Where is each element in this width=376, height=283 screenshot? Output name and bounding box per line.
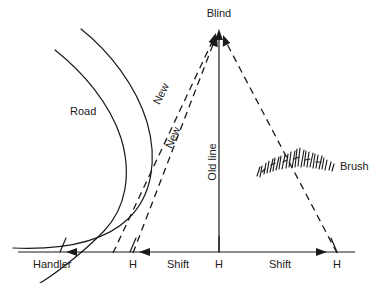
h-tick-marks [60,236,337,252]
blind-label: Blind [207,7,231,19]
brush-label: Brush [340,160,369,172]
handler-label: Handler [33,258,72,270]
arrow-left-icon-outer [66,248,77,256]
new-line-upper [113,40,213,253]
road-edge-outer [13,29,152,248]
h-label-right: H [333,258,341,270]
shift-label-left: Shift [167,258,189,270]
road-label: Road [70,105,96,117]
handler-tick [60,238,66,252]
road-edge-inner [40,50,126,283]
h-tick-right [331,238,337,252]
new-label-upper: New [151,81,171,106]
arrow-up-icon-right [223,35,230,47]
old-line-group [215,29,223,252]
h-label-center: H [215,258,223,270]
arrow-right-icon [316,248,327,256]
arrow-left-icon-inner [139,248,150,256]
old-line-label: Old line [206,143,218,180]
diagram-canvas: Blind Road New New Old line Brush Handle… [0,0,376,283]
blind-sight-line-right [226,42,337,253]
brush-texture-icon [257,148,334,177]
shift-label-right: Shift [269,258,291,270]
new-label-lower: New [163,125,183,150]
blind-sight-line-right-group [223,35,337,253]
h-label-left: H [129,258,137,270]
blind-curve-shift-diagram: Blind Road New New Old line Brush Handle… [0,0,376,283]
baseline-group [18,248,355,256]
h-tick-left [130,238,136,252]
road-edges [13,29,152,283]
